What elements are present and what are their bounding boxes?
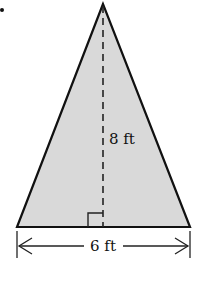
triangle-diagram: 8 ft 6 ft bbox=[0, 0, 202, 281]
height-label: 8 ft bbox=[109, 130, 135, 148]
bullet-dot bbox=[0, 8, 4, 12]
base-label: 6 ft bbox=[90, 237, 116, 255]
